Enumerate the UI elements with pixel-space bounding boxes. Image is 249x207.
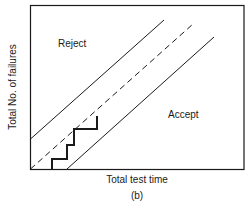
y-axis-label: Total No. of failures bbox=[7, 44, 18, 130]
reject-region-label: Reject bbox=[58, 38, 86, 49]
x-axis-label: Total test time bbox=[0, 174, 249, 185]
plot-frame bbox=[31, 6, 245, 170]
observed-failures-staircase bbox=[52, 116, 97, 169]
expected-dashed-line bbox=[31, 24, 194, 169]
accept-boundary-line bbox=[67, 37, 214, 169]
figure-caption: (b) bbox=[0, 190, 249, 201]
accept-region-label: Accept bbox=[168, 109, 199, 120]
